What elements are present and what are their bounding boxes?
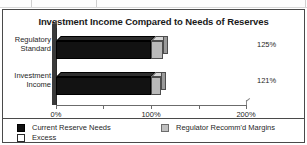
legend-label: Regulator Recomm'd Margins — [176, 123, 275, 132]
x-tick-200 — [246, 105, 247, 109]
value-label-regulatory-standard: 125% — [257, 40, 276, 49]
category-label-line-2: Income — [14, 80, 51, 89]
x-tick-50 — [103, 105, 104, 109]
value-label-investment-income: 121% — [257, 76, 276, 85]
chart-legend: Current Reserve Needs Excess Regulator R… — [3, 118, 304, 145]
category-label-regulatory-standard: Regulatory Standard — [15, 35, 51, 53]
x-tick-150 — [199, 105, 200, 109]
category-label-investment-income: Investment Income — [14, 71, 51, 89]
chart-container: Investment Income Compared to Needs of R… — [2, 9, 305, 143]
legend-item-current-reserve-needs[interactable]: Current Reserve Needs — [17, 123, 111, 132]
legend-swatch-icon — [17, 124, 25, 132]
legend-label: Current Reserve Needs — [32, 123, 111, 132]
category-label-line-1: Investment — [14, 71, 51, 80]
x-tick-100 — [151, 105, 152, 109]
clipped-table-strip-above — [0, 0, 307, 8]
legend-item-excess[interactable]: Excess — [17, 133, 56, 142]
chart-screenshot: Investment Income Compared to Needs of R… — [0, 0, 307, 145]
legend-swatch-icon — [161, 124, 169, 132]
legend-swatch-icon — [17, 134, 25, 142]
x-tick-0 — [56, 105, 57, 109]
legend-label: Excess — [32, 133, 56, 142]
category-label-line-1: Regulatory — [15, 35, 51, 44]
legend-item-regulator-recommd-margins[interactable]: Regulator Recomm'd Margins — [161, 123, 275, 132]
category-label-line-2: Standard — [15, 44, 51, 53]
